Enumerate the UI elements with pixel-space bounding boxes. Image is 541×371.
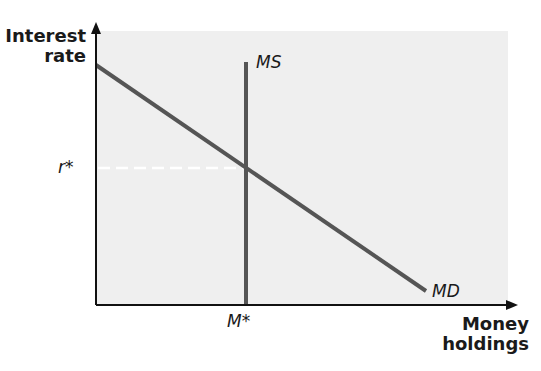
x-axis-title-line2: holdings xyxy=(442,334,529,354)
md-label: MD xyxy=(432,281,460,301)
m-star-label: M* xyxy=(227,311,250,331)
y-axis-title: Interest rate xyxy=(5,26,86,66)
ms-label: MS xyxy=(256,52,281,72)
y-axis-title-line1: Interest xyxy=(5,26,86,46)
x-axis-title-line1: Money xyxy=(442,314,529,334)
x-axis-arrow-icon xyxy=(506,300,518,310)
r-star-label: r* xyxy=(58,157,74,177)
x-axis-title: Money holdings xyxy=(442,314,529,354)
y-axis-arrow-icon xyxy=(91,22,101,34)
y-axis-title-line2: rate xyxy=(5,46,86,66)
